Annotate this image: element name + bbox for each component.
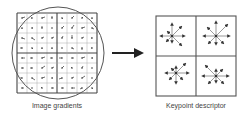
keypoint-descriptor-grid (156, 16, 236, 96)
keypoint-descriptor-caption: Keypoint descriptor (156, 102, 236, 109)
image-gradients-caption: Image gradients (17, 102, 97, 109)
sift-diagram (0, 0, 248, 117)
image-gradients-grid (12, 7, 104, 99)
